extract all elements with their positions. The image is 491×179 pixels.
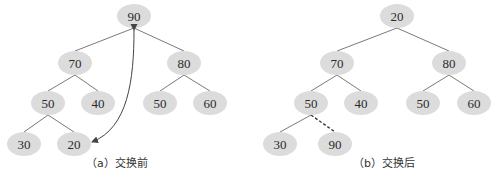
node-label: 40	[92, 96, 105, 111]
node-after-root: 20	[380, 4, 414, 28]
node-before-20: 20	[57, 132, 91, 156]
edges-before	[24, 28, 210, 132]
node-before-70: 70	[58, 51, 92, 75]
edge-80-60	[449, 75, 474, 91]
caption-after-swap: （b）交换后	[353, 154, 415, 170]
edge-90-80	[134, 28, 184, 51]
node-after-50-left: 50	[294, 91, 328, 115]
node-after-30: 30	[263, 132, 297, 156]
tree-after-swap: 20 70 80 50 40 50	[263, 4, 491, 156]
node-before-50-right: 50	[143, 91, 177, 115]
node-label: 70	[331, 56, 344, 71]
node-before-50-left: 50	[31, 91, 65, 115]
node-before-30: 30	[7, 132, 41, 156]
node-label: 50	[42, 96, 55, 111]
heap-swap-diagram: 90 70 80 50 40 50	[0, 0, 491, 179]
edge-50-20	[48, 115, 74, 132]
node-before-80: 80	[167, 51, 201, 75]
node-after-60: 60	[457, 91, 491, 115]
node-label: 80	[443, 56, 456, 71]
node-label: 40	[355, 96, 368, 111]
dashed-edge-50-90	[311, 115, 335, 132]
node-label: 20	[391, 9, 404, 24]
node-label: 20	[68, 137, 81, 152]
edge-50-30	[280, 115, 311, 132]
node-label: 50	[417, 96, 430, 111]
node-label: 90	[329, 137, 342, 152]
node-after-50-right: 50	[406, 91, 440, 115]
edge-70-40	[337, 75, 361, 91]
edge-70-50	[311, 75, 337, 91]
node-label: 60	[468, 96, 481, 111]
edge-90-70	[75, 28, 134, 51]
edge-20-80	[397, 28, 449, 51]
edge-70-40	[75, 75, 98, 91]
node-label: 50	[154, 96, 167, 111]
caption-before-swap: （a）交换前	[86, 154, 148, 170]
node-after-90: 90	[318, 132, 352, 156]
edge-50-30	[24, 115, 48, 132]
node-label: 80	[178, 56, 191, 71]
swap-arrow-icon	[92, 30, 134, 142]
node-label: 30	[274, 137, 287, 152]
tree-before-swap: 90 70 80 50 40 50	[7, 4, 227, 156]
node-before-root: 90	[117, 4, 151, 28]
edge-80-50	[160, 75, 184, 91]
node-before-60: 60	[193, 91, 227, 115]
diagram-canvas: 90 70 80 50 40 50	[0, 0, 491, 179]
node-label: 70	[69, 56, 82, 71]
node-label: 90	[128, 9, 141, 24]
node-before-40: 40	[81, 91, 115, 115]
edge-20-70	[337, 28, 397, 51]
edge-80-50	[423, 75, 449, 91]
node-label: 50	[305, 96, 318, 111]
edge-80-60	[184, 75, 210, 91]
node-after-70: 70	[320, 51, 354, 75]
node-label: 60	[204, 96, 217, 111]
edges-after	[280, 28, 474, 132]
edge-70-50	[48, 75, 75, 91]
node-after-80: 80	[432, 51, 466, 75]
node-label: 30	[18, 137, 31, 152]
node-after-40: 40	[344, 91, 378, 115]
